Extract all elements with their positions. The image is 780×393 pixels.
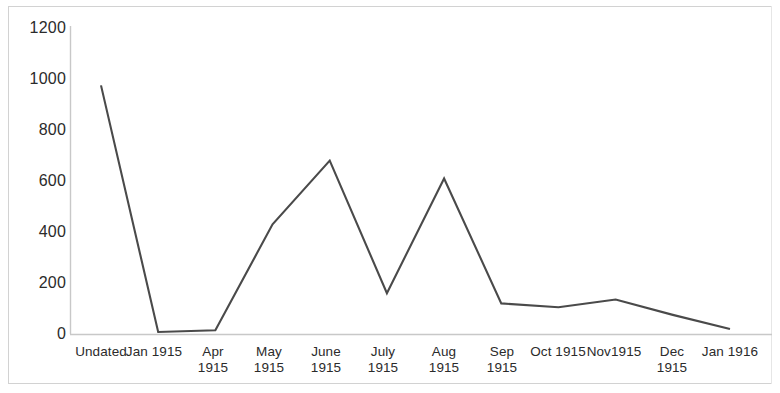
plot-area [0, 0, 780, 393]
x-tick-label-jan-1916: Jan 1916 [690, 344, 770, 360]
data-series-line [101, 85, 730, 332]
x-axis-tick-labels: Undated Jan 1915 Apr 1915 May 1915 June … [0, 344, 780, 392]
chart-figure: 1200 1000 800 600 400 200 0 Undated Jan … [0, 0, 780, 393]
